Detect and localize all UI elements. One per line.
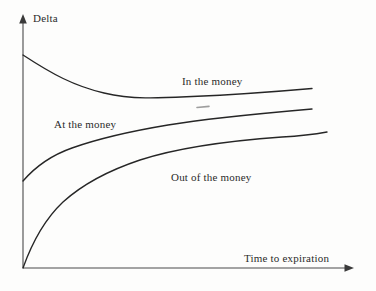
- curve-label-in-the-money: In the money: [182, 75, 242, 87]
- scan-artifact-mark: [197, 106, 209, 107]
- curve-label-out-of-the-money: Out of the money: [171, 171, 252, 183]
- curve-label-at-the-money: At the money: [54, 118, 116, 130]
- curve-out-of-the-money: [23, 132, 327, 268]
- x-axis-label: Time to expiration: [244, 252, 329, 264]
- x-axis-arrowhead: [345, 264, 355, 272]
- chart-plot-area: [0, 0, 376, 291]
- curve-in-the-money: [23, 55, 312, 98]
- y-axis-label: Delta: [33, 12, 58, 24]
- y-axis-arrowhead: [19, 14, 27, 24]
- delta-vs-time-chart: Delta Time to expiration In the money At…: [0, 0, 376, 291]
